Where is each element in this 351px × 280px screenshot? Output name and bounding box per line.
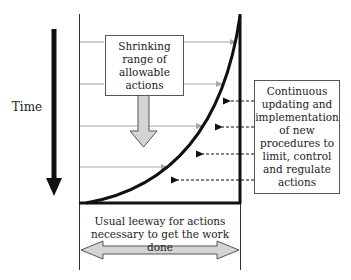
right-box-line-3: implementation: [255, 111, 339, 124]
leeway-label: Usual leeway for actions necessary to ge…: [82, 215, 238, 254]
shrinking-range-line-4: actions: [118, 79, 170, 92]
leeway-line-1: Usual leeway for actions: [82, 215, 238, 228]
right-box-line-4: of new: [255, 124, 339, 137]
time-label: Time: [10, 101, 44, 114]
right-box-line-2: updating and: [255, 98, 339, 111]
right-box-line-8: actions: [255, 176, 339, 189]
time-arrow-icon: [46, 29, 62, 196]
right-box-line-6: limit, control: [255, 150, 339, 163]
right-box-line-5: procedures to: [255, 137, 339, 150]
shrinking-range-line-2: range of: [118, 53, 170, 66]
shrinking-range-line-1: Shrinking: [118, 40, 170, 53]
continuous-updating-box: Continuous updating and implementation o…: [254, 80, 340, 194]
shrinking-range-line-3: allowable: [118, 66, 170, 79]
down-block-arrow-icon: [130, 95, 157, 147]
dashed-arrows: [178, 101, 254, 180]
diagram-canvas: Time Shrinking range of allowable action…: [0, 0, 351, 280]
shrinking-range-box: Shrinking range of allowable actions: [105, 35, 184, 96]
leeway-line-2: necessary to get the work done: [82, 228, 238, 254]
right-box-line-7: and regulate: [255, 163, 339, 176]
right-box-line-1: Continuous: [255, 85, 339, 98]
